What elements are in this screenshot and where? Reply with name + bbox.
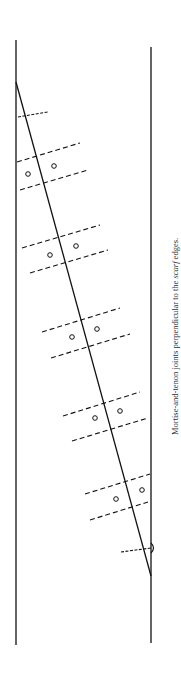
peg-hole bbox=[48, 253, 53, 258]
peg-hole bbox=[26, 172, 31, 177]
peg-hole bbox=[93, 416, 98, 421]
peg-hole bbox=[95, 327, 100, 332]
peg-hole bbox=[52, 164, 57, 169]
peg-hole bbox=[140, 488, 145, 493]
figure-caption: Mortise-and-tenon joints perpendicular t… bbox=[170, 238, 180, 435]
scarf-joint-diagram bbox=[0, 0, 181, 682]
caption-suffix: edges. bbox=[170, 238, 180, 262]
caption-text: Mortise-and-tenon joints perpendicular t… bbox=[170, 279, 180, 436]
caption-emphasis: scarf bbox=[170, 262, 180, 279]
peg-hole bbox=[118, 409, 123, 414]
peg-hole bbox=[74, 244, 79, 249]
peg-hole bbox=[114, 497, 119, 502]
peg-hole bbox=[70, 335, 75, 340]
